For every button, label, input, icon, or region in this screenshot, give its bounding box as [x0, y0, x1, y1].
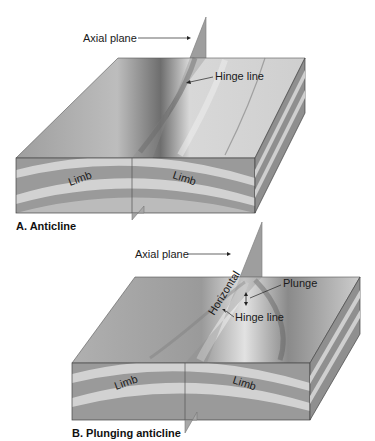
hinge-line-label: Hinge line	[215, 70, 264, 82]
anticline-diagram: Axial plane Hinge line Limb Limb A. Anti…	[16, 17, 305, 232]
caption-plunging-anticline: B. Plunging anticline	[72, 427, 181, 439]
strata-front-face	[16, 157, 255, 213]
hinge-line-label: Hinge line	[235, 311, 284, 323]
caption-anticline: A. Anticline	[16, 220, 76, 232]
axial-plane-label: Axial plane	[135, 248, 189, 260]
fold-diagrams: Axial plane Hinge line Limb Limb A. Anti…	[0, 0, 375, 441]
axial-plane-label: Axial plane	[83, 32, 137, 44]
terrain-surface	[72, 277, 360, 363]
strata-front-face	[72, 361, 310, 420]
plunging-anticline-diagram: Axial plane Horizontal Plunge Hinge line…	[72, 222, 360, 439]
plunge-label: Plunge	[283, 277, 317, 289]
